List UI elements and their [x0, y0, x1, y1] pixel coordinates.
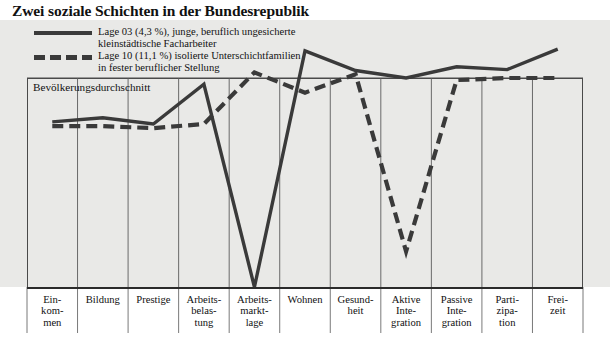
x-axis-category-2: Prestige [128, 291, 179, 337]
x-axis-category-0: Ein-kom-men [27, 291, 78, 337]
x-axis-category-8: PassiveInte-gration [431, 291, 482, 337]
x-axis-category-10: Frei-zeit [532, 291, 583, 337]
chart-figure: Zwei soziale Schichten in der Bundesrepu… [0, 0, 610, 337]
x-axis-category-3: Arbeits-belas-tung [179, 291, 230, 337]
x-axis-line [27, 287, 583, 289]
x-axis-category-1: Bildung [78, 291, 129, 337]
x-axis-category-5: Wohnen [280, 291, 331, 337]
x-axis-category-labels: Ein-kom-menBildungPrestigeArbeits-belas-… [27, 291, 583, 337]
x-axis-category-6: Gesund-heit [330, 291, 381, 337]
x-axis-category-9: Parti-zipa-tion [482, 291, 533, 337]
x-axis-category-4: Arbeits-markt-lage [229, 291, 280, 337]
reference-line-label: Bevölkerungsdurchschnitt [33, 81, 150, 93]
x-axis-category-7: AktiveInte-gration [381, 291, 432, 337]
